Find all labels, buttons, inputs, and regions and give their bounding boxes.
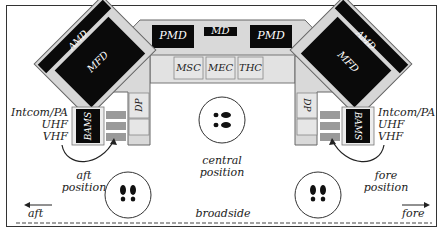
- fore-direction-label: fore: [402, 208, 424, 220]
- intcom-right-button: [320, 111, 340, 119]
- bams-left-label: BAMS: [82, 108, 94, 144]
- fore-position-label: fore position: [358, 170, 414, 194]
- fore-position-circle: [295, 172, 341, 218]
- msc-label: MSC: [174, 62, 203, 74]
- pmd-left-label: PMD: [152, 30, 194, 42]
- mec-label: MEC: [206, 62, 235, 74]
- left-comm-labels: Intcom/PA UHF VHF: [6, 107, 68, 143]
- aft-position-label: aft position: [56, 170, 112, 194]
- vhf-right-label: VHF: [378, 131, 444, 143]
- thc-label: THC: [238, 62, 263, 74]
- central-position-label: central position: [194, 155, 250, 179]
- right-comm-labels: Intcom/PA UHF VHF: [378, 107, 444, 143]
- md-label: MD: [204, 25, 237, 37]
- aft-direction-label: aft: [28, 208, 43, 220]
- dp-left-label: DP: [133, 93, 145, 117]
- intcom-left-button: [106, 111, 126, 119]
- uhf-right-button: [320, 122, 340, 130]
- dp-right-label: DP: [301, 93, 313, 117]
- pmd-right-label: PMD: [250, 30, 292, 42]
- vhf-right-button: [320, 133, 340, 141]
- vhf-left-button: [106, 133, 126, 141]
- broadside-label: broadside: [190, 208, 256, 220]
- central-position-circle: [199, 97, 245, 143]
- bams-right-label: BAMS: [352, 108, 364, 144]
- uhf-left-button: [106, 122, 126, 130]
- vhf-left-label: VHF: [6, 131, 68, 143]
